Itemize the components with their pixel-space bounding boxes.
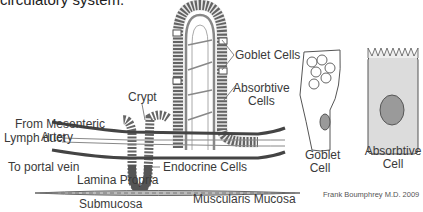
label-submucosa: Submucosa bbox=[79, 198, 142, 211]
label-endocrine-cells: Endocrine Cells bbox=[163, 161, 247, 174]
label-muscularis-mucosa: Muscularis Mucosa bbox=[193, 193, 296, 206]
label-goblet-cells: Goblet Cells bbox=[235, 49, 300, 62]
villus bbox=[173, 5, 258, 150]
label-to-portal-vein: To portal vein bbox=[8, 161, 79, 174]
label-absorbtive-cell: Absorbtive Cell bbox=[360, 145, 423, 171]
label-lymph-duct: Lymph duct bbox=[4, 132, 66, 145]
absorptive-cell-illustration bbox=[368, 48, 418, 154]
credit-text: Frank Boumphrey M.D. 2009 bbox=[323, 191, 419, 199]
label-lamina-propria: Lamina Propria bbox=[77, 174, 158, 187]
goblet-cell-illustration bbox=[300, 50, 340, 151]
label-absorbtive-cells: Absorbtive Cells bbox=[233, 82, 290, 108]
label-crypt: Crypt bbox=[128, 91, 157, 104]
villus-diagram bbox=[0, 0, 423, 212]
label-goblet-cell: Goblet Cell bbox=[305, 149, 335, 175]
